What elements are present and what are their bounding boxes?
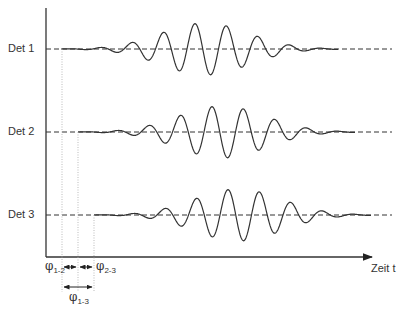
det3-label: Det 3 [8, 208, 34, 220]
det1-label: Det 1 [8, 42, 34, 54]
phase-label-1-3: φ1-3 [69, 290, 89, 306]
x-axis-label: Zeit t [371, 262, 395, 274]
phase-label-1-2: φ1-2 [45, 259, 65, 275]
det2-label: Det 2 [8, 125, 34, 137]
phase-label-2-3: φ2-3 [96, 259, 116, 275]
